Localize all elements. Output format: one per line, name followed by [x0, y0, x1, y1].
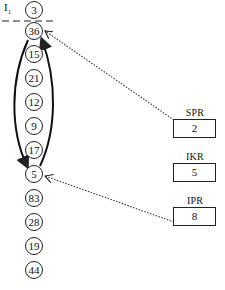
stack-node: 28 [25, 213, 43, 231]
stack-node: 3 [25, 1, 43, 19]
stack-node: 15 [25, 45, 43, 63]
stack-node: 17 [25, 141, 43, 159]
stack-node: 5 [25, 165, 43, 183]
spr-pointer-arrow [45, 31, 174, 120]
stack-node: 83 [25, 189, 43, 207]
stack-node: 21 [25, 69, 43, 87]
stack-node: 12 [25, 93, 43, 111]
spr-label: SPR [173, 107, 217, 118]
ipr-pointer-arrow [45, 176, 174, 222]
stack-register-diagram: I1 3 36 15 21 12 9 17 5 83 28 19 44 SPR … [0, 0, 225, 290]
ikr-label: IKR [173, 151, 217, 162]
stack-node: 19 [25, 237, 43, 255]
stack-node: 44 [25, 261, 43, 279]
ikr-value-box: 5 [173, 163, 216, 182]
spr-value-box: 2 [173, 119, 216, 138]
ipr-value-box: 8 [173, 207, 216, 226]
ipr-label: IPR [173, 195, 217, 206]
stack-node: 9 [25, 117, 43, 135]
stack-node: 36 [25, 22, 43, 40]
